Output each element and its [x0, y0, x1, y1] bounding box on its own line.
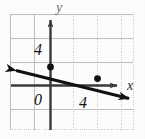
x-axis-label: x [127, 79, 133, 93]
x-axis-tick-label-4: 4 [79, 95, 87, 111]
origin-label: 0 [34, 92, 42, 108]
point-x-intercept [94, 75, 101, 82]
graph-figure: 4 0 4 y x [0, 0, 145, 139]
grid-lines [10, 14, 134, 130]
grid-lines-major [10, 14, 133, 130]
y-axis-tick-label-4: 4 [34, 42, 42, 58]
point-y-intercept [47, 64, 54, 71]
y-axis-label: y [56, 1, 62, 15]
axes [11, 20, 117, 130]
coordinate-plane-svg [0, 0, 145, 139]
